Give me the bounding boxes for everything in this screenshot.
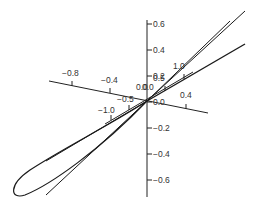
z-tick-label: −0.2 [153,123,170,133]
y-tick-label: 0.5 [153,73,165,83]
x-tick-label: 0.4 [180,90,192,100]
plot-canvas: −0.8 −0.4 0.0 0.4 0.6 0.4 0.2 0.0 −0.2 −… [0,0,260,209]
3d-plot: −0.8 −0.4 0.0 0.4 0.6 0.4 0.2 0.0 −0.2 −… [0,0,260,209]
z-tick-label: −0.6 [153,175,170,185]
x-tick-label: −0.8 [62,68,79,78]
z-tick-label: 0.0 [153,97,165,107]
z-tick-label: 0.6 [153,19,165,29]
y-tick-label: −0.5 [117,94,134,104]
z-tick-label: −0.4 [153,149,170,159]
x-tick-label: −0.4 [101,75,118,85]
y-tick-label: −1.0 [98,105,115,115]
z-axis: 0.6 0.4 0.2 0.0 −0.2 −0.4 −0.6 [147,19,170,197]
z-tick-label: 0.4 [153,45,165,55]
y-tick-label: 0.0 [142,82,154,92]
